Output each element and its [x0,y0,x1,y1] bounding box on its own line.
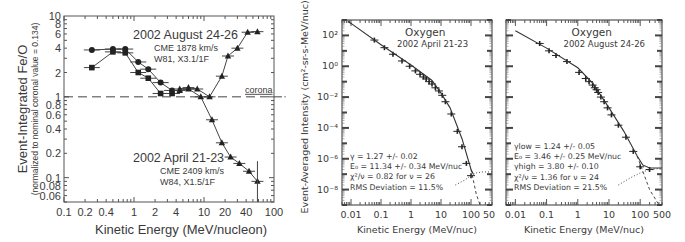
annotation-april-title: 2002 April 21-23 [133,151,224,165]
x-tick-label: 1 [408,209,414,220]
fit-parameter-text: RMS Deviation = 21.5% [514,183,607,192]
annotation-april-cme: CME 2409 km/s [160,166,225,176]
y-tick-label: 10⁻⁸ [317,184,338,195]
y-axis-label: Event-Averaged Intensity (cm²-sr-s-MeV/n… [299,0,310,213]
y-tick-label: 0.2 [46,147,61,159]
y-tick-label: 10⁰ [322,60,338,71]
annotation-august-cme: CME 1878 km/s [154,43,219,53]
y-tick-label: 2 [55,67,61,79]
x-tick-label: 0.2 [77,206,92,218]
fit-parameter-text: γ = 1.27 +/- 0.02 [350,152,418,161]
oxygen-april-chart: 0.010.1110100500Kinetic Energy (MeV/nuc)… [295,0,495,242]
chart-title: Oxygen [405,26,445,38]
y-axis-sublabel: (normalized to nominal coronal value = 0… [30,22,40,195]
x-tick-label: 40 [240,206,252,218]
x-tick-label: 0.01 [340,209,361,220]
series-fit-extrapolation [471,170,480,205]
x-tick-label: 0.1 [56,206,71,218]
y-tick-label: 4 [55,42,61,54]
series-background [618,168,662,185]
x-tick-label: 100 [462,209,480,220]
fit-parameter-text: γlow = 1.24 +/- 0.05 [514,142,595,151]
fit-parameter-text: χ²/ν = 0.82 for ν = 26 [350,172,435,181]
x-tick-label: 0.1 [539,209,554,220]
feo-ratio-chart: 0.10.20.412410204010010864210.80.60.40.2… [0,0,300,242]
annotation-august-flare: W81, X3.1/1F [154,54,210,64]
fit-parameter-text: RMS Deviation = 11.5% [350,183,443,192]
x-tick-label: 100 [631,209,649,220]
series-fit-extrapolation [637,156,659,205]
x-tick-label: 1 [575,209,581,220]
x-tick-label: 20 [219,206,231,218]
x-tick-label: 0.4 [98,206,113,218]
x-tick-label: 500 [653,209,671,220]
y-tick-label: 0.06 [40,190,61,202]
y-tick-label: 0.6 [46,109,61,121]
y-tick-label: 10⁻⁴ [317,122,338,133]
y-axis-label: Event-Integrated Fe/O [15,45,30,174]
y-tick-label: 0.4 [46,123,61,135]
y-tick-label: 10² [322,29,338,40]
x-tick-label: 10 [435,209,447,220]
chart-subtitle: 2002 August 24-26 [564,39,645,49]
fit-parameter-text: E₀ = 3.46 +/- 0.25 MeV/nuc [514,152,621,161]
y-tick-label: 10⁻² [317,91,338,102]
x-axis-label: Kinetic Energy (MeV/nuc) [357,224,477,235]
fit-parameter-text: γhigh = 3.80 +/- 0.10 [514,162,599,171]
oxygen-august-chart: 0.010.1110100500Kinetic Energy (MeV/nuc)… [490,0,685,242]
x-tick-label: 4 [173,206,179,218]
x-tick-label: 10 [603,209,615,220]
x-tick-label: 1 [131,206,137,218]
chart-subtitle: 2002 April 21-23 [397,39,468,49]
y-tick-label: 6 [55,28,61,40]
oxygen-august-plot: 0.010.1110100500Kinetic Energy (MeV/nuc)… [490,0,685,242]
x-tick-label: 0.01 [505,209,526,220]
x-tick-label: 100 [265,206,283,218]
oxygen-april-plot: 0.010.1110100500Kinetic Energy (MeV/nuc)… [295,0,495,242]
y-tick-label: 10⁻⁶ [317,153,338,164]
x-tick-label: 2 [152,206,158,218]
annotation-april-flare: W84, X1.5/1F [160,177,216,187]
corona-label: corona [245,85,273,95]
x-axis-label: Kinetic Energy (MeV/nuc) [524,224,644,235]
fit-parameter-text: E₀ = 11.34 +/- 0.34 MeV/nuc [350,162,462,171]
x-tick-label: 0.1 [373,209,388,220]
annotation-august-title: 2002 August 24-26 [133,28,238,42]
x-axis-label: Kinetic Energy (MeV/nucleon) [95,222,267,237]
fit-parameter-text: χ²/ν = 1.36 for ν = 24 [514,173,599,182]
feo-ratio-plot: 0.10.20.412410204010010864210.80.60.40.2… [0,0,300,242]
x-tick-label: 10 [198,206,210,218]
chart-title: Oxygen [572,26,612,38]
